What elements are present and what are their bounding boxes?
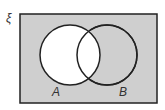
set-a-circle xyxy=(40,25,100,85)
set-a-label: A xyxy=(51,85,60,99)
venn-diagram: ξ A B xyxy=(0,0,165,110)
set-b-label: B xyxy=(119,85,127,99)
universal-set-symbol: ξ xyxy=(6,11,12,25)
